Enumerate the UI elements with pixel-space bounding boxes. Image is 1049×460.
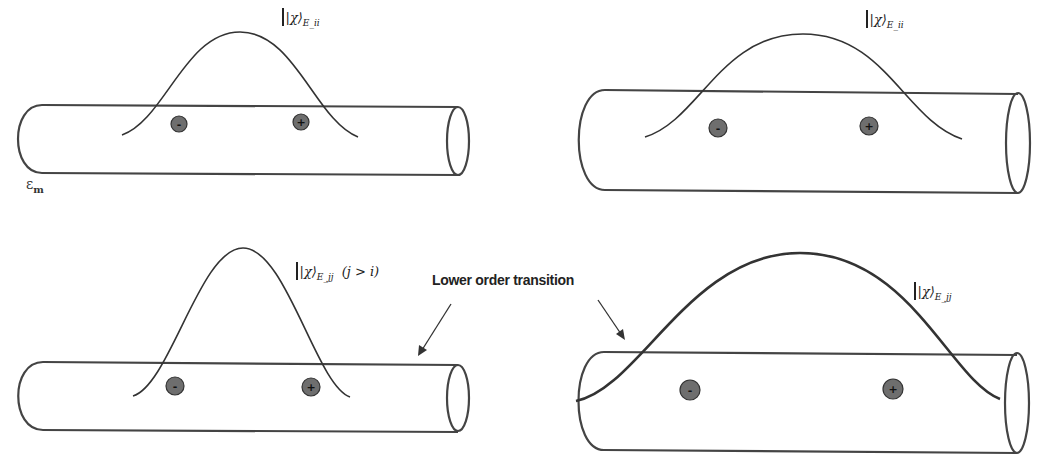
- wavefunction-curve: [645, 34, 962, 139]
- wavefunction-label-top-right: |χ⟩E_ii: [866, 10, 904, 30]
- ket-bar: [866, 10, 868, 28]
- negative-charge-sign: -: [716, 122, 721, 135]
- nanotube-body: [18, 362, 458, 432]
- ket-bar: [282, 8, 284, 26]
- arrowhead-icon: [418, 345, 427, 356]
- positive-charge-sign: +: [864, 120, 873, 133]
- positive-charge-sign: +: [306, 381, 315, 394]
- panel-bottom-left: - +: [18, 248, 469, 432]
- medium-label: εm: [26, 176, 44, 195]
- ket-subscript: E_ii: [303, 18, 320, 28]
- nanotube-body: [18, 105, 458, 175]
- medium-subscript: m: [33, 184, 44, 195]
- positive-charge-sign: +: [888, 383, 897, 396]
- ket-symbol: |χ⟩: [918, 284, 935, 299]
- ket-subscript: E_ii: [887, 20, 904, 30]
- wavefunction-label-bottom-left: |χ⟩E_jj (j > i): [296, 262, 379, 282]
- annotation-caption: Lower order transition: [432, 272, 574, 288]
- ket-subscript: E_jj: [935, 292, 952, 302]
- ket-symbol: |χ⟩: [300, 264, 317, 279]
- negative-charge-sign: -: [688, 384, 693, 397]
- negative-charge-sign: -: [177, 118, 182, 131]
- nanotube-opening: [447, 365, 469, 431]
- nanotube-body: [579, 90, 1018, 193]
- nanotube-opening: [447, 107, 469, 175]
- nanotube-body: [579, 352, 1018, 453]
- ket-bar: [296, 262, 298, 280]
- panel-top-right: - +: [579, 34, 1030, 193]
- ket-symbol: |χ⟩: [286, 10, 303, 25]
- ket-bar: [914, 282, 916, 300]
- annotation-arrows: [418, 300, 625, 356]
- wavefunction-curve: [122, 32, 358, 137]
- wavefunction-label-bottom-right: |χ⟩E_jj: [914, 282, 952, 302]
- arrow-to-bottom-right: [598, 300, 621, 334]
- condition-text: (j > i): [342, 264, 380, 279]
- diagram-canvas: - + - + - + - +: [0, 0, 1049, 460]
- positive-charge-sign: +: [296, 116, 305, 129]
- panel-bottom-right: - +: [576, 253, 1029, 453]
- wavefunction-curve: [576, 253, 1000, 401]
- wavefunction-label-top-left: |χ⟩E_ii: [282, 8, 320, 28]
- negative-charge-sign: -: [173, 380, 178, 393]
- panel-top-left: - +: [18, 32, 469, 175]
- ket-symbol: |χ⟩: [870, 12, 887, 27]
- ket-subscript: E_jj: [317, 272, 334, 282]
- nanotube-opening: [1005, 353, 1029, 453]
- nanotube-opening: [1006, 93, 1030, 193]
- arrow-to-bottom-left: [422, 304, 451, 350]
- arrowhead-icon: [616, 329, 625, 340]
